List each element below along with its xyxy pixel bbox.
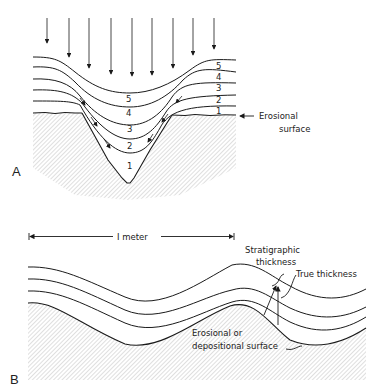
layer-number-right-4: 4	[216, 72, 221, 82]
deposition-arrows	[47, 18, 214, 76]
true-thickness-label: True thickness	[295, 269, 357, 279]
layer-number-right-2: 2	[216, 95, 221, 105]
substrate-hatch-a	[33, 113, 236, 200]
erosional-surface-label-line2: surface	[279, 124, 310, 134]
layer-number-right-5: 5	[216, 61, 221, 71]
layer-number-trough-3: 3	[127, 124, 132, 134]
layer-4-top	[33, 67, 236, 107]
layer-number-trough-5: 5	[126, 94, 131, 104]
layer-number-trough-4: 4	[126, 108, 131, 118]
layer-number-right-3: 3	[216, 83, 221, 93]
surface-label-line2: depositional surface	[192, 341, 278, 351]
panel-a-letter: A	[12, 164, 21, 179]
panel-b-letter: B	[10, 372, 19, 387]
surface-label-line1: Erosional or	[192, 328, 243, 338]
panel-a: 5 4 3 2 1 5 4 3 2 1 Erosional surface A	[12, 18, 310, 200]
layer-number-trough-2: 2	[127, 141, 132, 151]
erosional-surface-label-line1: Erosional	[259, 111, 298, 121]
layer-5-top	[33, 57, 236, 93]
layer-number-trough-1: 1	[127, 161, 132, 171]
panel-b: I meter Stratigraphic thickness True thi…	[10, 232, 366, 387]
scale-bar-label: I meter	[117, 232, 148, 242]
diagram-canvas: 5 4 3 2 1 5 4 3 2 1 Erosional surface A	[0, 0, 376, 389]
layer-number-right-1: 1	[216, 106, 221, 116]
stratigraphic-label-line1: Stratigraphic	[245, 245, 300, 255]
stratigraphic-label-line2: thickness	[256, 257, 297, 267]
